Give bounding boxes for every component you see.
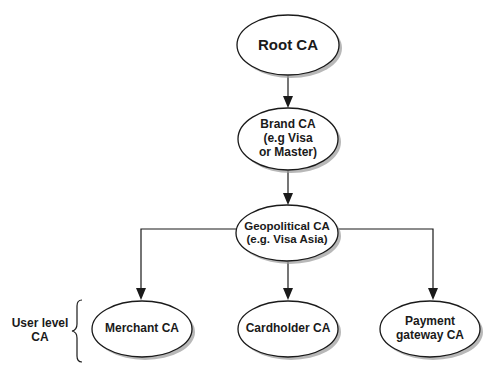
node-merchant: Merchant CA: [92, 301, 192, 357]
node-payment-label-line2: gateway CA: [396, 329, 464, 343]
node-geopolitical-label-line2: (e.g. Visa Asia): [246, 233, 327, 246]
node-brand-label-line3: or Master): [259, 146, 317, 160]
arrow-brand-geopolitical-icon: [283, 193, 293, 205]
user-level-ca-label: User level CA: [6, 316, 74, 345]
node-root-label: Root CA: [258, 36, 318, 53]
node-payment-label-line1: Payment: [405, 315, 455, 329]
node-brand-label-line1: Brand CA: [260, 118, 315, 132]
node-brand: Brand CA (e.g Visa or Master): [238, 108, 338, 170]
edge-geopolitical-payment: [338, 229, 433, 288]
node-geopolitical-label-line1: Geopolitical CA: [244, 220, 330, 233]
node-root: Root CA: [237, 15, 339, 75]
arrow-geopolitical-cardholder-icon: [283, 288, 293, 300]
edge-geopolitical-merchant: [141, 229, 237, 288]
node-cardholder: Cardholder CA: [238, 301, 338, 357]
node-cardholder-label: Cardholder CA: [246, 322, 331, 336]
node-brand-label-line2: (e.g Visa: [263, 132, 312, 146]
user-level-ca-label-line1: User level: [6, 316, 74, 330]
user-level-ca-label-line2: CA: [6, 330, 74, 344]
node-geopolitical: Geopolitical CA (e.g. Visa Asia): [236, 205, 338, 261]
arrow-root-brand-icon: [283, 96, 293, 108]
node-payment: Payment gateway CA: [380, 301, 480, 357]
node-merchant-label: Merchant CA: [105, 322, 179, 336]
arrow-geopolitical-merchant-icon: [136, 288, 146, 300]
arrow-geopolitical-payment-icon: [428, 288, 438, 300]
